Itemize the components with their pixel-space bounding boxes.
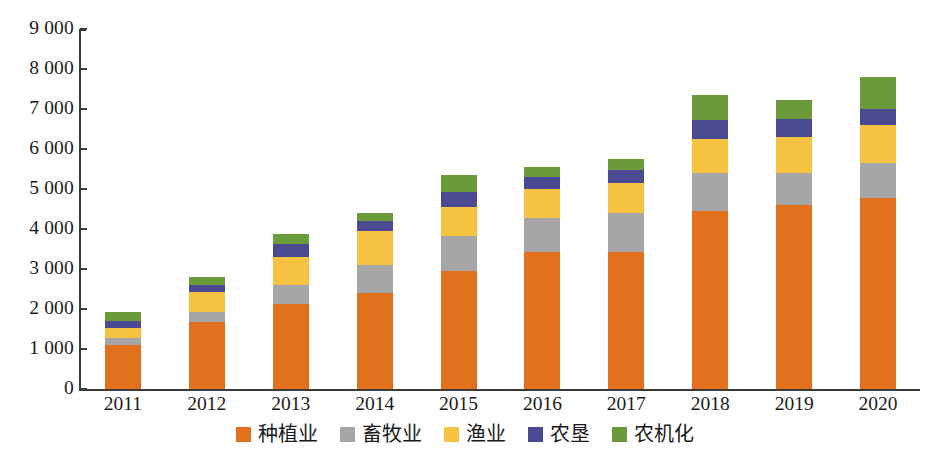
bar-segment-种植业[interactable] — [105, 345, 141, 389]
bar-group[interactable] — [608, 29, 644, 389]
legend-item-渔业[interactable]: 渔业 — [444, 424, 506, 444]
x-axis-tick-label: 2014 — [335, 393, 415, 415]
legend-swatch-icon — [236, 427, 251, 442]
bar-segment-农垦[interactable] — [524, 177, 560, 188]
bar-segment-渔业[interactable] — [776, 137, 812, 173]
bar-segment-畜牧业[interactable] — [776, 173, 812, 205]
bar-segment-农垦[interactable] — [608, 170, 644, 183]
x-axis-tick-label: 2011 — [83, 393, 163, 415]
bar-segment-农机化[interactable] — [860, 77, 896, 109]
stacked-bar[interactable] — [357, 213, 393, 389]
bar-segment-农垦[interactable] — [189, 285, 225, 292]
y-axis-tick-label: 9 000 — [2, 17, 74, 39]
bar-group[interactable] — [441, 29, 477, 389]
bar-segment-种植业[interactable] — [441, 271, 477, 389]
stacked-bar[interactable] — [441, 175, 477, 389]
bar-segment-种植业[interactable] — [273, 304, 309, 389]
bar-group[interactable] — [189, 29, 225, 389]
bar-segment-农机化[interactable] — [273, 234, 309, 244]
bar-segment-农垦[interactable] — [692, 120, 728, 140]
legend-swatch-icon — [444, 427, 459, 442]
legend-label: 畜牧业 — [362, 424, 422, 444]
stacked-bar[interactable] — [860, 77, 896, 389]
bar-group[interactable] — [357, 29, 393, 389]
x-axis-tick-label: 2012 — [167, 393, 247, 415]
bar-segment-畜牧业[interactable] — [692, 173, 728, 212]
plot-bars — [81, 29, 920, 389]
stacked-bar[interactable] — [273, 234, 309, 389]
stacked-bar[interactable] — [608, 159, 644, 389]
bar-segment-种植业[interactable] — [776, 205, 812, 389]
legend-label: 种植业 — [258, 424, 318, 444]
bar-segment-畜牧业[interactable] — [357, 265, 393, 293]
bar-segment-渔业[interactable] — [189, 292, 225, 312]
bar-segment-畜牧业[interactable] — [860, 163, 896, 198]
bar-segment-农机化[interactable] — [189, 277, 225, 285]
bar-segment-渔业[interactable] — [357, 231, 393, 265]
bar-segment-渔业[interactable] — [273, 257, 309, 285]
bar-group[interactable] — [692, 29, 728, 389]
bar-segment-农机化[interactable] — [105, 312, 141, 321]
stacked-bar[interactable] — [105, 312, 141, 389]
bar-segment-农机化[interactable] — [776, 100, 812, 119]
legend-item-农垦[interactable]: 农垦 — [528, 424, 590, 444]
bar-segment-农机化[interactable] — [441, 175, 477, 192]
bar-segment-种植业[interactable] — [189, 322, 225, 389]
bar-segment-畜牧业[interactable] — [273, 285, 309, 304]
bar-segment-渔业[interactable] — [105, 328, 141, 338]
bar-segment-畜牧业[interactable] — [608, 213, 644, 252]
y-axis-tick-label: 4 000 — [2, 217, 74, 239]
bar-segment-渔业[interactable] — [524, 189, 560, 218]
bar-segment-农垦[interactable] — [860, 109, 896, 124]
bar-segment-农机化[interactable] — [357, 213, 393, 221]
x-axis-line — [79, 389, 920, 391]
y-axis-tick-label: 5 000 — [2, 177, 74, 199]
legend-item-种植业[interactable]: 种植业 — [236, 424, 318, 444]
bar-segment-农垦[interactable] — [273, 244, 309, 257]
x-axis-tick-label: 2013 — [251, 393, 331, 415]
y-axis-tick-label: 7 000 — [2, 97, 74, 119]
bar-group[interactable] — [776, 29, 812, 389]
bar-segment-农垦[interactable] — [105, 321, 141, 328]
stacked-bar[interactable] — [189, 277, 225, 389]
bar-segment-畜牧业[interactable] — [105, 338, 141, 345]
bar-group[interactable] — [524, 29, 560, 389]
y-axis-tick-label: 3 000 — [2, 257, 74, 279]
legend-item-农机化[interactable]: 农机化 — [612, 424, 694, 444]
legend-swatch-icon — [340, 427, 355, 442]
bar-segment-种植业[interactable] — [357, 293, 393, 389]
legend-swatch-icon — [528, 427, 543, 442]
bar-segment-渔业[interactable] — [441, 207, 477, 235]
bar-segment-种植业[interactable] — [608, 252, 644, 389]
bar-segment-畜牧业[interactable] — [189, 312, 225, 322]
y-axis-tick-label: 2 000 — [2, 297, 74, 319]
stacked-bar[interactable] — [524, 167, 560, 389]
bar-segment-农机化[interactable] — [524, 167, 560, 177]
bar-segment-农垦[interactable] — [357, 221, 393, 231]
bar-segment-农机化[interactable] — [608, 159, 644, 170]
bar-group[interactable] — [105, 29, 141, 389]
legend-label: 渔业 — [466, 424, 506, 444]
y-axis-tick-label: 8 000 — [2, 57, 74, 79]
bar-group[interactable] — [273, 29, 309, 389]
bar-segment-畜牧业[interactable] — [441, 236, 477, 271]
legend-item-畜牧业[interactable]: 畜牧业 — [340, 424, 422, 444]
stacked-bar[interactable] — [776, 100, 812, 389]
x-axis-tick-label: 2018 — [670, 393, 750, 415]
bar-segment-畜牧业[interactable] — [524, 218, 560, 252]
bar-segment-农垦[interactable] — [441, 192, 477, 208]
bar-group[interactable] — [860, 29, 896, 389]
legend-swatch-icon — [612, 427, 627, 442]
bar-segment-农机化[interactable] — [692, 95, 728, 120]
bar-segment-种植业[interactable] — [524, 252, 560, 389]
x-axis-tick-label: 2016 — [502, 393, 582, 415]
chart-legend: 种植业畜牧业渔业农垦农机化 — [0, 424, 929, 444]
bar-segment-渔业[interactable] — [608, 183, 644, 213]
bar-segment-渔业[interactable] — [692, 139, 728, 172]
legend-label: 农机化 — [634, 424, 694, 444]
bar-segment-渔业[interactable] — [860, 125, 896, 163]
bar-segment-种植业[interactable] — [692, 211, 728, 389]
stacked-bar[interactable] — [692, 95, 728, 389]
bar-segment-农垦[interactable] — [776, 119, 812, 137]
bar-segment-种植业[interactable] — [860, 198, 896, 389]
